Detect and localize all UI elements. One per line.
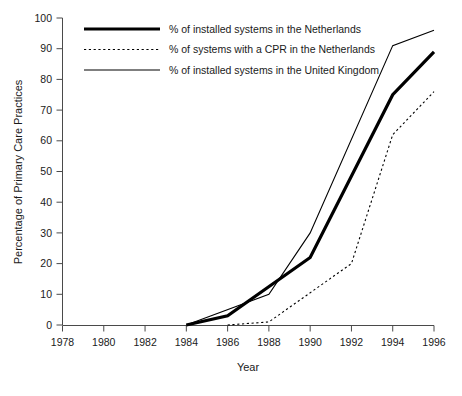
legend-label-2: % of installed systems in the United Kin… (169, 64, 379, 76)
x-tick-label: 1980 (92, 336, 116, 348)
line-chart-canvas: 0102030405060708090100 19781980198219841… (0, 0, 462, 396)
x-tick-label: 1992 (340, 336, 364, 348)
y-tick-label: 60 (40, 134, 52, 146)
legend-label-0: % of installed systems in the Netherland… (169, 23, 361, 35)
y-tick-label: 50 (40, 165, 52, 177)
y-tick-label: 40 (40, 196, 52, 208)
y-tick-label: 90 (40, 42, 52, 54)
y-tick-label: 20 (40, 257, 52, 269)
chart-figure: 0102030405060708090100 19781980198219841… (0, 0, 462, 396)
x-tick-label: 1978 (51, 336, 75, 348)
y-tick-label: 70 (40, 104, 52, 116)
x-tick-label: 1996 (422, 336, 446, 348)
y-tick-label: 100 (34, 12, 52, 24)
legend-label-1: % of systems with a CPR in the Netherlan… (169, 43, 375, 55)
x-tick-label: 1988 (257, 336, 281, 348)
y-tick-label: 30 (40, 227, 52, 239)
y-axis-title: Percentage of Primary Care Practices (12, 79, 24, 264)
x-tick-label: 1990 (298, 336, 322, 348)
x-tick-label: 1994 (381, 336, 405, 348)
y-tick-label: 80 (40, 73, 52, 85)
y-tick-label: 10 (40, 288, 52, 300)
x-tick-label: 1982 (133, 336, 157, 348)
x-tick-label: 1986 (216, 336, 240, 348)
y-tick-label: 0 (46, 319, 52, 331)
x-tick-label: 1984 (175, 336, 199, 348)
x-axis-title: Year (237, 361, 260, 373)
